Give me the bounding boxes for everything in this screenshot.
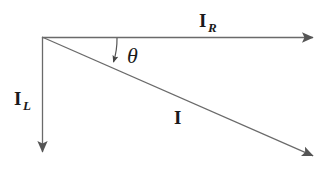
angle-theta-arc: [114, 38, 118, 62]
vector-diagram-figure: IR IL I θ: [0, 0, 334, 172]
angle-label-theta: θ: [127, 45, 138, 67]
vector-label-i: I: [174, 108, 182, 127]
vector-label-ir-subscript: R: [208, 20, 217, 35]
vector-label-il-symbol: I: [14, 88, 22, 109]
vector-label-il: IL: [14, 89, 30, 108]
vector-label-ir-symbol: I: [199, 10, 207, 31]
vector-label-ir: IR: [199, 11, 216, 30]
vector-diagram-canvas: [0, 0, 334, 172]
vector-i-line: [42, 37, 313, 156]
vector-label-il-subscript: L: [23, 98, 31, 113]
vector-label-i-symbol: I: [174, 107, 182, 128]
